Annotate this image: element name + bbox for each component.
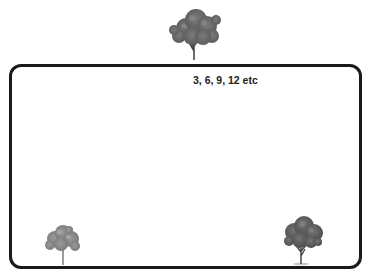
sequence-label: 3, 6, 9, 12 etc	[193, 74, 258, 86]
tree-bottom-right-icon	[280, 214, 326, 266]
tree-bottom-left-icon	[41, 222, 83, 266]
tree-top-center-icon	[164, 6, 226, 62]
